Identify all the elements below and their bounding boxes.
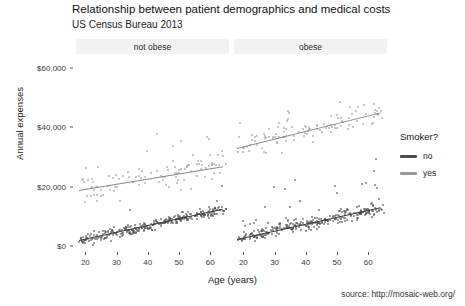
scatter-point [192, 154, 194, 156]
scatter-point [262, 229, 264, 231]
scatter-point [213, 172, 215, 174]
scatter-point [200, 160, 202, 162]
scatter-point [106, 236, 108, 238]
scatter-point [302, 218, 304, 220]
scatter-point [144, 176, 146, 178]
scatter-point [174, 166, 176, 168]
scatter-point [93, 189, 95, 191]
scatter-point [130, 225, 132, 227]
scatter-point [121, 235, 123, 237]
x-tick-mark [306, 252, 307, 255]
scatter-point [98, 231, 100, 233]
scatter-point [199, 208, 201, 210]
legend-item-no[interactable]: no [400, 149, 438, 163]
scatter-point [349, 106, 351, 108]
legend-title: Smoker? [400, 131, 438, 142]
scatter-point [239, 122, 241, 124]
y-tick-mark [70, 186, 73, 187]
scatter-point [356, 206, 358, 208]
scatter-point [196, 218, 198, 220]
chart-root: Relationship between patient demographic… [0, 0, 465, 306]
scatter-point [147, 227, 149, 229]
scatter-point [262, 236, 264, 238]
x-tick-mark [337, 252, 338, 255]
scatter-point [279, 222, 281, 224]
x-tick-label: 50 [333, 258, 342, 267]
scatter-point [87, 179, 89, 181]
scatter-point [371, 123, 373, 125]
scatter-point [383, 212, 385, 214]
scatter-point [138, 168, 140, 170]
scatter-point [340, 125, 342, 127]
scatter-point [180, 168, 182, 170]
scatter-point [307, 226, 309, 228]
scatter-point [373, 214, 375, 216]
scatter-point [156, 170, 158, 172]
legend-key-swatch [400, 172, 417, 175]
scatter-point [302, 128, 304, 130]
scatter-point [204, 176, 206, 178]
scatter-point [126, 231, 128, 233]
x-tick-label: 60 [364, 258, 373, 267]
legend-item-yes[interactable]: yes [400, 166, 438, 180]
scatter-point [129, 231, 131, 233]
scatter-point [87, 233, 89, 235]
scatter-point [141, 170, 143, 172]
scatter-point [321, 131, 323, 133]
scatter-point [222, 155, 224, 157]
scatter-point [122, 175, 124, 177]
scatter-point [265, 137, 267, 139]
scatter-point [93, 194, 95, 196]
scatter-point [118, 178, 120, 180]
scatter-point [305, 126, 307, 128]
scatter-point [82, 236, 84, 238]
scatter-point [367, 211, 369, 213]
scatter-point [332, 215, 334, 217]
scatter-point [306, 133, 308, 135]
scatter-point [348, 117, 350, 119]
scatter-point [378, 210, 380, 212]
scatter-point [276, 142, 278, 144]
y-tick-label: $60,000 [18, 63, 66, 72]
scatter-point [256, 135, 258, 137]
scatter-point [197, 160, 199, 162]
source-caption: source: http://mosaic-web.org/ [341, 289, 455, 299]
scatter-point [287, 118, 289, 120]
scatter-point [128, 176, 130, 178]
scatter-point [127, 171, 129, 173]
scatter-point [208, 165, 210, 167]
x-tick-label: 20 [239, 258, 248, 267]
scatter-point [162, 179, 164, 181]
scatter-point [109, 189, 111, 191]
scatter-point [271, 233, 273, 235]
scatter-point [343, 217, 345, 219]
scatter-point [238, 136, 240, 138]
scatter-point [209, 208, 211, 210]
scatter-point [112, 177, 114, 179]
scatter-point [115, 174, 117, 176]
scatter-point [363, 104, 365, 106]
scatter-point [129, 209, 131, 211]
scatter-point [287, 220, 289, 222]
regression-line [237, 207, 381, 240]
scatter-point [344, 220, 346, 222]
scatter-point [221, 206, 223, 208]
scatter-point [175, 176, 177, 178]
scatter-point [102, 230, 104, 232]
scatter-point [334, 127, 336, 129]
scatter-point [357, 214, 359, 216]
scatter-point [176, 182, 178, 184]
legend-item-label: yes [423, 168, 436, 178]
scatter-point [84, 201, 86, 203]
plot-panel [234, 56, 387, 252]
scatter-point [107, 230, 109, 232]
scatter-point [221, 150, 223, 152]
scatter-point [283, 127, 285, 129]
scatter-point [318, 209, 320, 211]
scatter-point [374, 184, 376, 186]
scatter-point [135, 176, 137, 178]
scatter-point [327, 223, 329, 225]
scatter-point [96, 200, 98, 202]
scatter-point [257, 229, 259, 231]
scatter-point [112, 234, 114, 236]
